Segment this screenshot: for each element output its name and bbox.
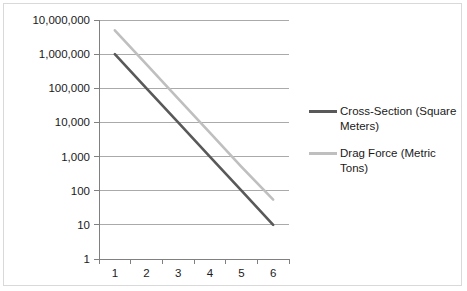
gridlines	[99, 20, 289, 225]
y-tick-label: 10	[77, 219, 90, 231]
y-tick-label: 100,000	[48, 82, 90, 94]
y-tick-label: 1	[84, 253, 90, 265]
y-tick-labels: 1101001,00010,000100,0001,000,00010,000,…	[32, 14, 90, 265]
y-tick-label: 10,000,000	[32, 14, 90, 26]
x-tick-label: 3	[175, 267, 181, 279]
legend-item-label: Drag Force (Metric Tons)	[340, 146, 436, 176]
y-tick-label: 1,000,000	[39, 48, 90, 60]
legend-color-swatch	[309, 110, 337, 113]
series-line	[115, 54, 273, 225]
x-tick-label: 6	[270, 267, 276, 279]
legend-item[interactable]: Drag Force (Metric Tons)	[309, 146, 459, 176]
x-tick-marks	[99, 259, 289, 264]
x-tick-labels: 123456	[112, 267, 277, 279]
chart-legend: Cross-Section (Square Meters) Drag Force…	[309, 104, 459, 188]
legend-color-swatch	[309, 152, 337, 155]
y-tick-label: 1,000	[61, 151, 90, 163]
y-tick-marks	[94, 20, 99, 259]
series-lines	[115, 30, 273, 225]
x-tick-label: 1	[112, 267, 118, 279]
y-tick-label: 100	[71, 185, 90, 197]
x-tick-label: 5	[238, 267, 244, 279]
series-line	[115, 30, 273, 199]
legend-item-label: Cross-Section (Square Meters)	[340, 104, 456, 134]
x-tick-label: 2	[143, 267, 149, 279]
x-tick-label: 4	[207, 267, 214, 279]
chart-frame: 1101001,00010,000100,0001,000,00010,000,…	[3, 3, 462, 286]
y-tick-label: 10,000	[55, 116, 90, 128]
legend-item[interactable]: Cross-Section (Square Meters)	[309, 104, 459, 134]
